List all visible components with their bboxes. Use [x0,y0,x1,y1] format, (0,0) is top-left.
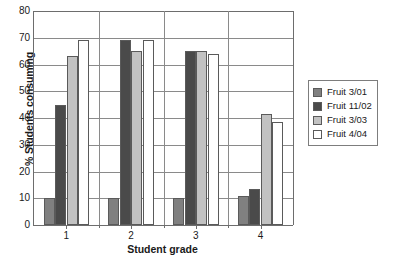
legend-item: Fruit 3/01 [313,85,372,99]
bar [261,114,272,225]
y-tick-label: 30 [4,140,30,150]
y-tick-label: 80 [4,6,30,16]
bar [131,51,142,225]
plot-right-border [293,11,294,225]
y-tick-label: 60 [4,60,30,70]
bar [173,198,184,225]
legend-swatch-icon [313,88,322,97]
legend-item: Fruit 3/03 [313,113,372,127]
plot-area: 1234 [33,11,293,226]
x-tick-label: 2 [111,230,151,241]
bar [272,122,283,225]
x-tick-mark [131,225,132,229]
bar [185,51,196,225]
x-minor-tick-mark [164,225,165,228]
x-tick-mark [66,225,67,229]
bar [249,189,260,225]
x-tick-label: 1 [46,230,86,241]
x-minor-tick-mark [228,225,229,228]
y-tick-label: 20 [4,167,30,177]
legend-label: Fruit 3/03 [327,115,367,125]
legend-label: Fruit 3/01 [327,87,367,97]
y-axis-tick-labels: 01020304050607080 [0,0,30,265]
legend-item: Fruit 11/02 [313,99,372,113]
y-tick-label: 40 [4,113,30,123]
x-minor-tick-mark [99,225,100,228]
y-tick-label: 10 [4,193,30,203]
y-tick-label: 50 [4,86,30,96]
bar-group-2 [99,11,164,225]
bar [108,198,119,225]
bar [143,40,154,225]
legend-label: Fruit 4/04 [327,129,367,139]
bar [238,196,249,225]
chart-figure: % Students consuming 01020304050607080 1… [0,0,395,265]
bar-group-4 [228,11,293,225]
y-tick-label: 0 [4,220,30,230]
bar [55,105,66,225]
bar [67,56,78,225]
bar [78,40,89,225]
bar [44,198,55,225]
bar [120,40,131,225]
x-tick-label: 4 [241,230,281,241]
chart-legend: Fruit 3/01Fruit 11/02Fruit 3/03Fruit 4/0… [308,80,378,146]
bar [208,54,219,225]
x-tick-mark [196,225,197,229]
legend-label: Fruit 11/02 [327,101,372,111]
legend-item: Fruit 4/04 [313,127,372,141]
x-axis-title: Student grade [33,243,292,255]
y-tick-label: 70 [4,33,30,43]
x-tick-label: 3 [176,230,216,241]
legend-swatch-icon [313,116,322,125]
bar-group-3 [164,11,229,225]
x-tick-mark [261,225,262,229]
legend-swatch-icon [313,102,322,111]
bar [196,51,207,225]
legend-swatch-icon [313,130,322,139]
bar-group-1 [34,11,99,225]
